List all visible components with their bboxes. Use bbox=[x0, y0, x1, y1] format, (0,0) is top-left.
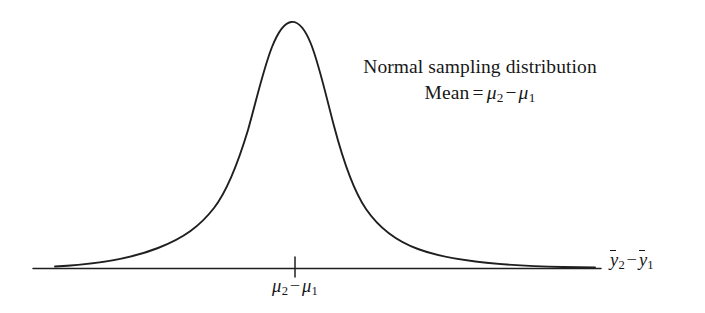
annotation-line-2: Mean=μ2−μ1 bbox=[345, 81, 615, 107]
x-axis-tick-label: μ2−μ1 bbox=[235, 276, 355, 299]
equals-sign: = bbox=[469, 82, 486, 103]
distribution-annotation: Normal sampling distribution Mean=μ2−μ1 bbox=[345, 55, 615, 107]
x-axis-label: y2−y1 bbox=[610, 250, 654, 273]
mu-2-subscript: 2 bbox=[497, 90, 504, 105]
mu-1-symbol: μ bbox=[519, 82, 529, 103]
tick-mu-2-subscript: 2 bbox=[281, 284, 288, 298]
tick-mu-1-subscript: 1 bbox=[311, 284, 318, 298]
y-bar-2-symbol: y bbox=[610, 250, 618, 271]
mu-1-subscript: 1 bbox=[528, 90, 535, 105]
annotation-line-1: Normal sampling distribution bbox=[345, 55, 615, 80]
axis-minus-sign: − bbox=[625, 250, 639, 270]
tick-mu-1-symbol: μ bbox=[302, 276, 311, 296]
y-bar-1-symbol: y bbox=[639, 250, 647, 271]
tick-mu-2-symbol: μ bbox=[272, 276, 281, 296]
distribution-plot bbox=[0, 0, 705, 313]
tick-minus-sign: − bbox=[288, 276, 302, 296]
minus-sign: − bbox=[504, 82, 519, 103]
figure-canvas: Normal sampling distribution Mean=μ2−μ1 … bbox=[0, 0, 705, 313]
mu-2-symbol: μ bbox=[487, 82, 497, 103]
mean-word: Mean bbox=[425, 82, 470, 103]
y-bar-1-subscript: 1 bbox=[647, 258, 654, 272]
y-bar-2-subscript: 2 bbox=[618, 258, 625, 272]
